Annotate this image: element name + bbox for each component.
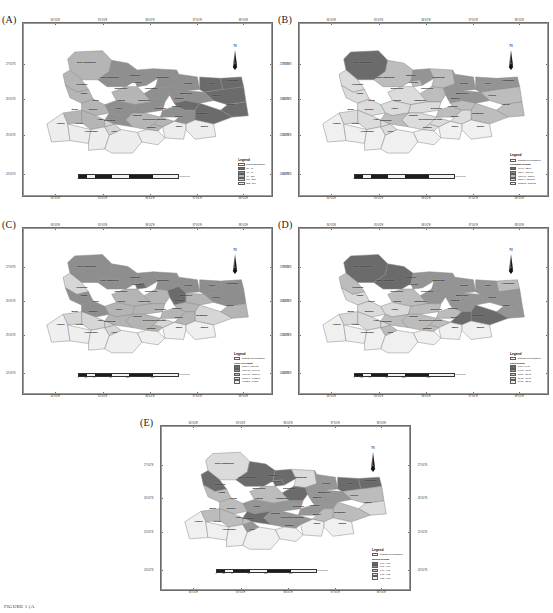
axis-label-longitude: 88°0'0"E [239,224,248,227]
axis-label-longitude: 85°0'0"E [98,197,107,200]
figure-caption: FIGURE 1 (A [4,604,35,613]
axis-label-latitude: 27°0'0"N [6,266,15,269]
axis-label-longitude: 84°0'0"E [51,395,60,398]
map-neatline [299,228,548,394]
axis-label-latitude: 25°0'0"N [418,530,427,533]
axis-label-longitude: 87°0'0"E [469,19,478,22]
panel-d: (D)84°0'0"E84°0'0"E85°0'0"E85°0'0"E86°0'… [276,213,553,411]
axis-label-longitude: 85°0'0"E [374,197,383,200]
axis-label-longitude: 84°0'0"E [51,224,60,227]
axis-label-longitude: 88°0'0"E [515,197,524,200]
axis-label-longitude: 85°0'0"E [98,395,107,398]
axis-label-longitude: 84°0'0"E [189,422,198,425]
axis-label-longitude: 88°0'0"E [515,395,524,398]
axis-label-longitude: 88°0'0"E [515,224,524,227]
axis-label-longitude: 87°0'0"E [193,19,202,22]
axis-label-longitude: 87°0'0"E [193,395,202,398]
map-frame-d: 84°0'0"E84°0'0"E85°0'0"E85°0'0"E86°0'0"E… [298,227,549,395]
axis-label-longitude: 88°0'0"E [239,197,248,200]
map-frame-e: 84°0'0"E84°0'0"E85°0'0"E85°0'0"E86°0'0"E… [160,425,411,591]
axis-label-latitude: 27°0'0"N [282,62,291,65]
axis-label-longitude: 88°0'0"E [515,19,524,22]
axis-label-longitude: 88°0'0"E [239,19,248,22]
axis-label-latitude: 26°0'0"N [418,497,427,500]
axis-label-longitude: 84°0'0"E [327,19,336,22]
axis-label-latitude: 25°0'0"N [6,133,15,136]
panel-letter-a: (A) [2,14,16,25]
axis-label-latitude: 26°0'0"N [6,300,15,303]
axis-label-longitude: 84°0'0"E [189,591,198,594]
axis-label-longitude: 84°0'0"E [327,224,336,227]
axis-label-latitude: 27°0'0"N [6,62,15,65]
axis-label-longitude: 87°0'0"E [469,224,478,227]
axis-label-longitude: 84°0'0"E [327,197,336,200]
axis-label-longitude: 86°0'0"E [421,197,430,200]
axis-label-longitude: 88°0'0"E [377,591,386,594]
axis-label-longitude: 86°0'0"E [421,395,430,398]
axis-label-longitude: 85°0'0"E [98,19,107,22]
axis-label-longitude: 84°0'0"E [51,19,60,22]
panel-letter-e: (E) [140,417,153,428]
figure-root: (A)84°0'0"E84°0'0"E85°0'0"E85°0'0"E86°0'… [0,0,553,613]
axis-label-longitude: 85°0'0"E [236,422,245,425]
axis-label-longitude: 87°0'0"E [193,197,202,200]
panel-b: (B)84°0'0"E84°0'0"E85°0'0"E85°0'0"E86°0'… [276,8,553,213]
map-neatline [23,23,272,196]
map-neatline [161,426,410,590]
map-frame-b: 84°0'0"E84°0'0"E85°0'0"E85°0'0"E86°0'0"E… [298,22,549,197]
axis-label-longitude: 86°0'0"E [421,224,430,227]
axis-label-latitude: 27°0'0"N [282,266,291,269]
panel-e: (E)84°0'0"E84°0'0"E85°0'0"E85°0'0"E86°0'… [138,411,415,607]
axis-label-latitude: 27°0'0"N [418,463,427,466]
map-frame-a: 84°0'0"E84°0'0"E85°0'0"E85°0'0"E86°0'0"E… [22,22,273,197]
axis-label-latitude: 24°0'0"N [6,173,15,176]
map-neatline [299,23,548,196]
axis-label-longitude: 86°0'0"E [145,395,154,398]
axis-label-latitude: 24°0'0"N [418,568,427,571]
axis-label-longitude: 87°0'0"E [193,224,202,227]
axis-label-longitude: 88°0'0"E [239,395,248,398]
axis-label-longitude: 85°0'0"E [374,19,383,22]
panel-a: (A)84°0'0"E84°0'0"E85°0'0"E85°0'0"E86°0'… [0,8,277,213]
axis-label-latitude: 26°0'0"N [282,300,291,303]
axis-label-latitude: 26°0'0"N [282,98,291,101]
axis-label-latitude: 26°0'0"N [6,98,15,101]
panel-letter-d: (D) [278,219,292,230]
axis-label-longitude: 88°0'0"E [377,422,386,425]
axis-label-longitude: 87°0'0"E [331,591,340,594]
axis-label-latitude: 25°0'0"N [6,334,15,337]
axis-label-latitude: 24°0'0"N [144,568,153,571]
axis-label-longitude: 85°0'0"E [374,224,383,227]
axis-label-longitude: 87°0'0"E [469,197,478,200]
axis-label-latitude: 24°0'0"N [282,372,291,375]
panel-letter-c: (C) [2,219,16,230]
axis-label-longitude: 86°0'0"E [145,197,154,200]
axis-label-longitude: 86°0'0"E [145,19,154,22]
axis-label-longitude: 85°0'0"E [98,224,107,227]
map-neatline [23,228,272,394]
axis-label-latitude: 24°0'0"N [282,173,291,176]
panel-letter-b: (B) [278,14,292,25]
axis-label-longitude: 85°0'0"E [236,591,245,594]
panel-c: (C)84°0'0"E84°0'0"E85°0'0"E85°0'0"E86°0'… [0,213,277,411]
axis-label-latitude: 26°0'0"N [144,497,153,500]
axis-label-latitude: 24°0'0"N [6,372,15,375]
axis-label-longitude: 87°0'0"E [469,395,478,398]
axis-label-longitude: 84°0'0"E [51,197,60,200]
axis-label-latitude: 25°0'0"N [282,334,291,337]
axis-label-longitude: 86°0'0"E [421,19,430,22]
axis-label-longitude: 86°0'0"E [145,224,154,227]
axis-label-longitude: 86°0'0"E [283,591,292,594]
axis-label-latitude: 25°0'0"N [144,530,153,533]
axis-label-longitude: 84°0'0"E [327,395,336,398]
axis-label-longitude: 87°0'0"E [331,422,340,425]
axis-label-longitude: 85°0'0"E [374,395,383,398]
axis-label-latitude: 25°0'0"N [282,133,291,136]
axis-label-longitude: 86°0'0"E [283,422,292,425]
map-frame-c: 84°0'0"E84°0'0"E85°0'0"E85°0'0"E86°0'0"E… [22,227,273,395]
axis-label-latitude: 27°0'0"N [144,463,153,466]
